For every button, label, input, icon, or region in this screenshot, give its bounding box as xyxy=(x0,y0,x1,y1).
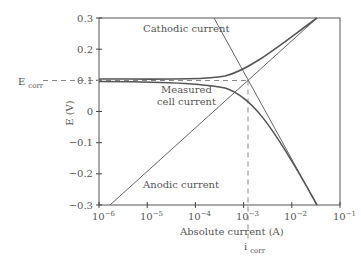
svg-text:10−2: 10−2 xyxy=(284,210,307,222)
y-tick-label: −0.3 xyxy=(69,200,93,211)
cathodic-label: Cathodic current xyxy=(143,23,229,34)
y-tick-label: 0 xyxy=(87,106,93,117)
anodic-line xyxy=(110,18,317,205)
y-tick-label: −0.1 xyxy=(69,137,93,148)
polarization-chart: 0.3 0.2 0.1 0 −0.1 −0.2 −0.3 10−6 10−5 1… xyxy=(0,0,361,262)
svg-text:10−6: 10−6 xyxy=(92,210,116,222)
y-tick-label: −0.2 xyxy=(69,168,93,179)
y-tick-label: 0.2 xyxy=(77,44,93,55)
svg-text:10−1: 10−1 xyxy=(333,210,356,222)
ecorr-label: Ecorr xyxy=(18,76,44,90)
measured-label-line1: Measured xyxy=(161,84,212,95)
svg-text:10−4: 10−4 xyxy=(188,210,212,222)
x-axis-label: Absolute current (A) xyxy=(179,226,284,237)
icorr-label: icorr xyxy=(244,241,266,255)
plot-frame xyxy=(99,18,340,205)
svg-text:10−5: 10−5 xyxy=(140,210,163,222)
measured-label-line2: cell current xyxy=(157,96,216,107)
y-tick-label: 0.3 xyxy=(77,13,93,24)
x-tick-labels: 10−6 10−5 10−4 10−3 10−2 10−1 xyxy=(92,210,356,222)
y-axis-label: E (V) xyxy=(64,100,75,126)
anodic-label: Anodic current xyxy=(142,179,219,190)
